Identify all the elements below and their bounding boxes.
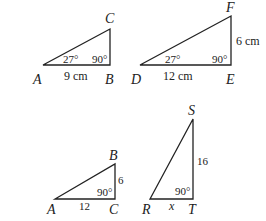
triangle-abc-top: C A B 9 cm 27° 90° — [32, 11, 115, 87]
side-label-st: 16 — [197, 155, 209, 167]
vertex-label-b2: B — [109, 148, 118, 163]
triangle-def: F D E 6 cm 12 cm 27° 90° — [130, 0, 260, 87]
angle-label-d: 27° — [165, 53, 180, 65]
vertex-label-b: B — [105, 72, 114, 87]
vertex-label-a: A — [32, 72, 42, 87]
vertex-label-r: R — [141, 202, 151, 217]
triangle-abc-bottom: B A C 6 12 90° — [46, 148, 124, 217]
vertex-label-d: D — [130, 72, 141, 87]
side-label-bc: 6 — [118, 174, 124, 186]
side-label-rt: x — [168, 199, 175, 213]
angle-label-e: 90° — [212, 53, 227, 65]
side-label-ab: 9 cm — [64, 69, 88, 83]
angle-label-b: 90° — [92, 53, 107, 65]
triangles-diagram: C A B 9 cm 27° 90° F D E 6 cm 12 cm 27° … — [0, 0, 266, 221]
vertex-label-a2: A — [46, 202, 56, 217]
angle-label-t: 90° — [175, 185, 190, 197]
triangle-rst: S R T 16 x 90° — [141, 103, 209, 217]
vertex-label-e: E — [225, 72, 235, 87]
vertex-label-c: C — [105, 11, 115, 26]
vertex-label-f: F — [225, 0, 235, 15]
side-label-de: 12 cm — [163, 69, 193, 83]
vertex-label-c2: C — [109, 202, 119, 217]
side-label-ac: 12 — [79, 200, 90, 212]
vertex-label-t: T — [188, 202, 197, 217]
vertex-label-s: S — [188, 103, 195, 118]
side-label-ef: 6 cm — [236, 34, 260, 48]
angle-label-a: 27° — [63, 53, 78, 65]
angle-label-c2: 90° — [97, 186, 112, 198]
